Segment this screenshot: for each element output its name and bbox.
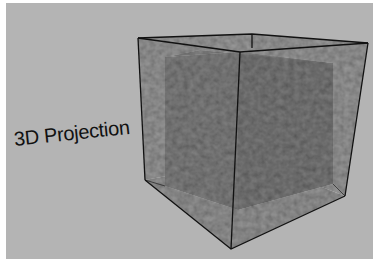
outer-cube-front xyxy=(138,34,368,249)
